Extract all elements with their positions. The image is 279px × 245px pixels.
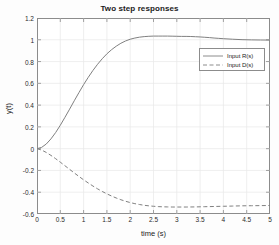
y-tick-label-7: -0.2	[2, 167, 34, 174]
legend-label-0: Input R(s)	[227, 53, 253, 59]
y-tick-label-8: -0.4	[2, 189, 34, 196]
figure-canvas: Two step responses 1.210.80.60.40.20-0.2…	[0, 0, 279, 245]
y-tick-label-0: 1.2	[2, 15, 34, 22]
chart-legend: Input R(s) Input D(s)	[199, 48, 265, 71]
legend-line-sample-dashed	[202, 61, 224, 69]
y-axis-label: y(t)	[4, 85, 13, 133]
x-tick-label-10: 5	[255, 216, 279, 223]
legend-entry-0: Input R(s)	[202, 51, 262, 60]
y-tick-label-1: 1	[2, 36, 34, 43]
x-axis-tick-labels: 00.511.522.533.544.55	[37, 216, 270, 228]
y-tick-label-2: 0.8	[2, 58, 34, 65]
y-tick-label-6: 0	[2, 145, 34, 152]
x-axis-label: time (s)	[37, 229, 270, 238]
chart-title: Two step responses	[0, 4, 279, 13]
legend-label-1: Input D(s)	[227, 62, 253, 68]
legend-entry-1: Input D(s)	[202, 60, 262, 69]
legend-line-sample-solid	[202, 52, 224, 60]
